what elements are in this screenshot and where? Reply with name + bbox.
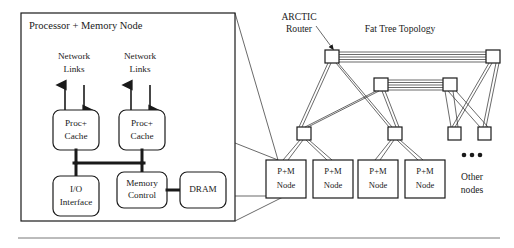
architecture-diagram: Processor + Memory Node Network Links Ne…	[0, 0, 514, 248]
pm-node-3-label-line2: Node	[369, 180, 388, 190]
memory-control-label-line1: Memory	[126, 178, 158, 188]
router-leaf-1	[297, 127, 311, 140]
io-interface-label-line2: Interface	[60, 197, 93, 207]
callout-line-middle	[235, 143, 278, 160]
pm-node-1-label-line1: P+M	[277, 166, 295, 176]
network-links-left-label-line1: Network	[58, 51, 91, 61]
callout-line-top	[235, 13, 278, 160]
leaf-1-host-links	[283, 140, 332, 160]
router-leaf-other-right	[478, 127, 491, 140]
proc-cache-right-label-line2: Cache	[131, 131, 154, 141]
proc-cache-left-label-line1: Proc+	[65, 118, 87, 128]
pm-node-2-label-line1: P+M	[324, 166, 342, 176]
ellipsis-dot-2	[470, 153, 475, 158]
tier1-left-downlinks	[299, 63, 392, 127]
dram-label: DRAM	[189, 184, 217, 194]
arctic-router-pointer	[316, 26, 333, 49]
pm-node-1-label-line2: Node	[277, 180, 296, 190]
io-interface-box	[53, 176, 99, 216]
arctic-router-label-line2: Router	[286, 23, 313, 34]
proc-cache-box-right	[119, 110, 165, 150]
router-tier1-right	[486, 50, 500, 63]
proc-cache-right-label-line1: Proc+	[131, 118, 153, 128]
proc-cache-left-label-line2: Cache	[65, 131, 88, 141]
pm-node-4-label-line2: Node	[416, 180, 435, 190]
right-cluster-downlinks	[445, 63, 499, 127]
callout-line-bottom	[235, 196, 285, 221]
memory-control-label-line2: Control	[128, 190, 157, 200]
pm-node-4-label-line1: P+M	[416, 166, 434, 176]
network-links-right-label-line2: Links	[130, 64, 151, 74]
router-tier2-left	[374, 78, 388, 91]
router-tier1-left	[325, 50, 339, 63]
ellipsis-dot-3	[478, 153, 483, 158]
other-nodes-label-line1: Other	[461, 171, 484, 182]
router-leaf-2	[388, 127, 402, 140]
network-links-left-label-line2: Links	[64, 64, 85, 74]
router-tier2-right	[443, 78, 457, 91]
proc-cache-box-left	[53, 110, 99, 150]
figure-canvas: Processor + Memory Node Network Links Ne…	[0, 0, 514, 248]
ellipsis-dot-1	[462, 153, 467, 158]
network-links-right-label-line1: Network	[124, 51, 157, 61]
fat-tree-title: Fat Tree Topology	[365, 23, 436, 34]
arctic-router-label-line1: ARCTIC	[281, 11, 316, 22]
leaf-2-host-links	[375, 140, 423, 160]
io-interface-label-line1: I/O	[70, 184, 83, 194]
tier2-link-bundle	[388, 80, 443, 90]
tier1-link-bundle	[339, 52, 486, 62]
pm-node-2-label-line2: Node	[324, 180, 343, 190]
panel-title: Processor + Memory Node	[29, 20, 143, 31]
router-leaf-other-left	[448, 127, 461, 140]
pm-node-3-label-line1: P+M	[369, 166, 387, 176]
other-nodes-label-line2: nodes	[461, 184, 484, 195]
